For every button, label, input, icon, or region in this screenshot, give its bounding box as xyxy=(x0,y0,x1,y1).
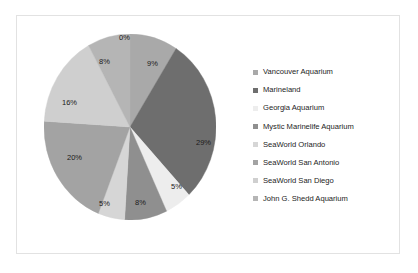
chart-legend: Vancouver AquariumMarinelandGeorgia Aqua… xyxy=(253,63,395,208)
legend-item[interactable]: Mystic Marinelife Aquarium xyxy=(253,117,395,135)
legend-swatch-icon xyxy=(253,160,258,165)
legend-item[interactable]: John G. Shedd Aquarium xyxy=(253,190,395,208)
legend-item-label: Vancouver Aquarium xyxy=(263,68,333,76)
pie-label-georgia-aquarium: 5% xyxy=(171,182,182,191)
legend-item-label: SeaWorld San Antonio xyxy=(263,159,339,167)
legend-item-label: John G. Shedd Aquarium xyxy=(263,195,348,203)
legend-swatch-icon xyxy=(253,178,258,183)
legend-item[interactable]: Georgia Aquarium xyxy=(253,99,395,117)
legend-swatch-icon xyxy=(253,106,258,111)
pie-slice-group xyxy=(44,34,216,220)
legend-item-label: Mystic Marinelife Aquarium xyxy=(263,123,354,131)
legend-item-label: SeaWorld Orlando xyxy=(263,141,325,149)
legend-item-label: Georgia Aquarium xyxy=(263,104,324,112)
pie-label-john-g-shedd-aquarium: 8% xyxy=(99,57,110,66)
pie-label-seaworld-orlando: 5% xyxy=(99,199,110,208)
pie-label-zero: 0% xyxy=(119,33,130,42)
pie-label-seaworld-san-diego: 16% xyxy=(62,98,77,107)
pie-chart-graphic xyxy=(44,34,216,220)
pie-label-marineland: 29% xyxy=(196,138,211,147)
legend-swatch-icon xyxy=(253,142,258,147)
legend-item-label: SeaWorld San Diego xyxy=(263,177,334,185)
legend-item-label: Marineland xyxy=(263,86,301,94)
legend-item[interactable]: Marineland xyxy=(253,81,395,99)
pie-label-vancouver-aquarium: 9% xyxy=(147,59,158,68)
legend-swatch-icon xyxy=(253,196,258,201)
legend-item[interactable]: SeaWorld Orlando xyxy=(253,135,395,153)
legend-item[interactable]: SeaWorld San Diego xyxy=(253,172,395,190)
pie-label-mystic-marinelife-aquarium: 8% xyxy=(135,198,146,207)
pie-label-seaworld-san-antonio: 20% xyxy=(67,153,82,162)
legend-swatch-icon xyxy=(253,70,258,75)
legend-item[interactable]: Vancouver Aquarium xyxy=(253,63,395,81)
legend-swatch-icon xyxy=(253,124,258,129)
pie-chart-plot-area: 0% 9% 29% 5% 8% 5% 20% 16% 8% Vancouver … xyxy=(0,0,418,273)
legend-item[interactable]: SeaWorld San Antonio xyxy=(253,153,395,171)
legend-swatch-icon xyxy=(253,88,258,93)
